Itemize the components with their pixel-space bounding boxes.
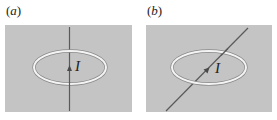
panel-b-drawing: [166, 28, 248, 111]
panel-a-current-label: I: [75, 58, 80, 75]
panel-a-drawing: [34, 27, 106, 111]
figure-drawing: [0, 0, 277, 120]
current-arrow-icon: [67, 65, 72, 71]
panel-b-current-label: I: [215, 60, 220, 77]
